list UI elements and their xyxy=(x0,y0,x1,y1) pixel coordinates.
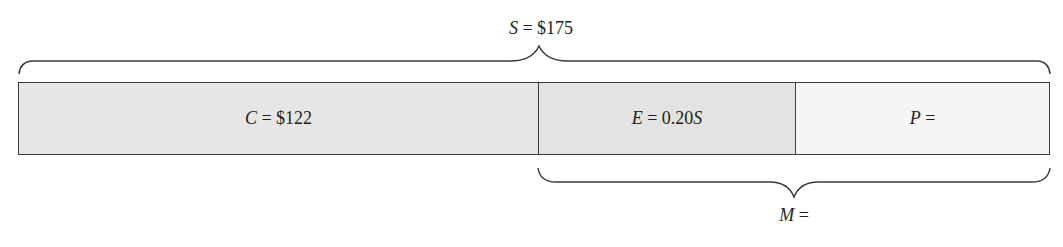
expenses-label: E = 0.20S xyxy=(632,108,703,129)
expenses-segment: E = 0.20S xyxy=(538,83,795,154)
price-bar: C = $122 E = 0.20S P = xyxy=(18,82,1050,155)
profit-segment: P = xyxy=(795,83,1049,154)
bottom-brace xyxy=(538,168,1050,197)
cost-label: C = $122 xyxy=(245,108,312,129)
profit-label: P = xyxy=(910,108,936,129)
markup-label: M = xyxy=(779,205,809,226)
total-sales-label: S = $175 xyxy=(509,18,573,39)
top-brace xyxy=(19,46,1050,74)
cost-segment: C = $122 xyxy=(19,83,538,154)
